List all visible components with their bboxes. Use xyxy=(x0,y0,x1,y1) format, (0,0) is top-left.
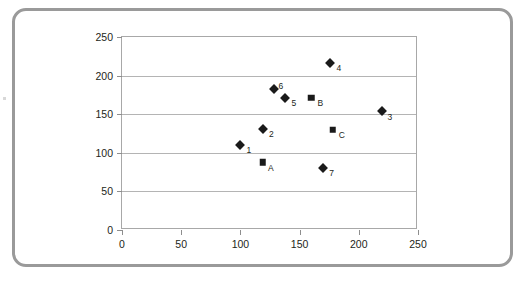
diamond-marker-icon xyxy=(280,93,290,103)
x-tick-50 xyxy=(181,230,182,235)
y-tick-100 xyxy=(117,153,122,154)
y-axis-label-250: 250 xyxy=(95,31,113,43)
diamond-marker-icon xyxy=(258,124,268,134)
y-tick-200 xyxy=(117,76,122,77)
diamond-marker-icon xyxy=(318,163,328,173)
gridline-y-150 xyxy=(122,114,416,115)
y-axis-label-50: 50 xyxy=(101,185,113,197)
scatter-chart: 050100150200250 050100150200250 1234567A… xyxy=(0,0,529,281)
data-point-label-C: C xyxy=(339,131,345,140)
diamond-marker-icon xyxy=(269,84,279,94)
diamond-marker-icon xyxy=(235,140,245,150)
x-axis-label-200: 200 xyxy=(350,238,368,250)
plot-area: 050100150200250 050100150200250 1234567A… xyxy=(121,36,417,229)
data-point-label-5: 5 xyxy=(291,99,296,108)
y-axis-label-200: 200 xyxy=(95,70,113,82)
screenshot-root: 050100150200250 050100150200250 1234567A… xyxy=(0,0,529,281)
x-axis-label-0: 0 xyxy=(119,238,125,250)
y-tick-250 xyxy=(117,37,122,38)
gridline-y-200 xyxy=(122,76,416,77)
data-point-label-2: 2 xyxy=(269,130,274,139)
data-point-label-1: 1 xyxy=(246,146,251,155)
data-point-label-7: 7 xyxy=(329,169,334,178)
square-marker-icon xyxy=(308,95,315,102)
y-tick-150 xyxy=(117,114,122,115)
y-tick-50 xyxy=(117,191,122,192)
data-point-label-A: A xyxy=(268,164,274,173)
diamond-marker-icon xyxy=(325,58,335,68)
x-tick-0 xyxy=(122,230,123,235)
data-point-label-3: 3 xyxy=(387,113,392,122)
x-axis-label-100: 100 xyxy=(232,238,250,250)
y-axis-label-0: 0 xyxy=(107,224,113,236)
y-axis-label-150: 150 xyxy=(95,108,113,120)
x-tick-200 xyxy=(359,230,360,235)
x-tick-100 xyxy=(240,230,241,235)
gridline-y-50 xyxy=(122,191,416,192)
data-point-label-B: B xyxy=(317,99,323,108)
x-axis-label-50: 50 xyxy=(175,238,187,250)
x-tick-150 xyxy=(300,230,301,235)
x-axis-label-150: 150 xyxy=(291,238,309,250)
square-marker-icon xyxy=(260,159,267,166)
x-tick-250 xyxy=(418,230,419,235)
y-axis-label-100: 100 xyxy=(95,147,113,159)
x-axis-label-250: 250 xyxy=(409,238,427,250)
data-point-label-4: 4 xyxy=(336,64,341,73)
data-point-label-6: 6 xyxy=(279,82,284,91)
square-marker-icon xyxy=(330,126,337,133)
gridline-y-100 xyxy=(122,153,416,154)
